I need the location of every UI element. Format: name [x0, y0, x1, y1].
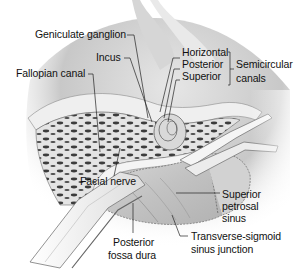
label-transverse-sigmoid-line2: sinus junction — [191, 243, 253, 255]
label-posterior-fossa-line2: fossa dura — [108, 249, 156, 261]
label-posterior-canal: Posterior — [182, 58, 223, 70]
label-superior-petrosal-line1: Superior — [222, 188, 261, 200]
label-incus: Incus — [96, 51, 121, 63]
label-transverse-sigmoid-line1: Transverse-sigmoid — [191, 230, 281, 242]
label-fallopian-canal: Fallopian canal — [16, 67, 85, 79]
anatomy-illustration: Geniculate ganglion Incus Fallopian cana… — [0, 0, 308, 270]
label-posterior-fossa-line1: Posterior — [113, 236, 154, 248]
label-geniculate-ganglion: Geniculate ganglion — [35, 28, 126, 40]
label-horizontal-canal: Horizontal — [182, 46, 228, 58]
label-semicircular-line1: Semicircular — [236, 58, 293, 70]
label-superior-petrosal-line2: petrosal — [222, 200, 259, 212]
label-superior-canal: Superior — [182, 70, 221, 82]
label-facial-nerve: Facial nerve — [80, 175, 136, 187]
label-semicircular-line2: canals — [236, 72, 266, 84]
label-superior-petrosal-line3: sinus — [222, 212, 246, 224]
